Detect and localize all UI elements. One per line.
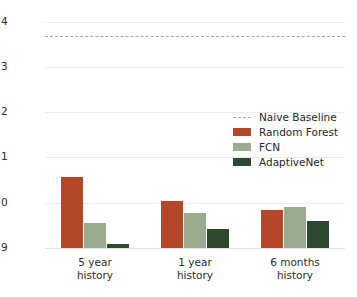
- legend-swatch-fcn-icon: [233, 143, 251, 151]
- bar-fcn-group-3: [284, 207, 306, 248]
- legend-label: FCN: [253, 141, 280, 153]
- bar-fcn-group-2: [184, 213, 206, 248]
- gridline-1.3: [45, 67, 345, 68]
- x-axis-line: [45, 248, 345, 249]
- legend-swatch-wrap: [231, 158, 253, 166]
- y-tick-label-1.3: 1.3: [0, 60, 8, 72]
- bar-rf-group-1: [61, 177, 83, 248]
- gridline-1.4: [45, 22, 345, 23]
- legend-swatch-wrap: [231, 128, 253, 136]
- bar-chart: 0.91.01.11.21.31.4 5 year history1 year …: [0, 0, 357, 297]
- legend-swatch-rf-icon: [233, 128, 251, 136]
- chart-legend: Naive BaselineRandom ForestFCNAdaptiveNe…: [231, 110, 353, 170]
- x-tick-label-1: 5 year history: [45, 256, 145, 281]
- x-tick-label-2: 1 year history: [145, 256, 245, 281]
- legend-item-dash: Naive Baseline: [231, 110, 353, 124]
- y-tick-label-1.0: 1.0: [0, 196, 8, 208]
- x-tick-label-3: 6 months history: [245, 256, 345, 281]
- reference-line-naive-baseline: [45, 36, 345, 37]
- gridline-1.0: [45, 203, 345, 204]
- bar-anet-group-3: [307, 221, 329, 248]
- y-tick-label-1.1: 1.1: [0, 150, 8, 162]
- legend-swatch-wrap: [231, 143, 253, 151]
- legend-item-fcn: FCN: [231, 140, 353, 154]
- legend-label: Random Forest: [253, 126, 338, 138]
- bar-fcn-group-1: [84, 223, 106, 248]
- y-tick-label-0.9: 0.9: [0, 241, 8, 253]
- bar-rf-group-3: [261, 210, 283, 249]
- legend-item-anet: AdaptiveNet: [231, 155, 353, 169]
- legend-swatch-wrap: [231, 117, 253, 118]
- y-tick-label-1.2: 1.2: [0, 105, 8, 117]
- bar-rf-group-2: [161, 201, 183, 248]
- y-tick-label-1.4: 1.4: [0, 15, 8, 27]
- bar-anet-group-2: [207, 229, 229, 248]
- legend-item-rf: Random Forest: [231, 125, 353, 139]
- legend-label: AdaptiveNet: [253, 156, 324, 168]
- legend-label: Naive Baseline: [253, 111, 337, 123]
- legend-swatch-anet-icon: [233, 158, 251, 166]
- legend-swatch-dash-icon: [233, 117, 251, 118]
